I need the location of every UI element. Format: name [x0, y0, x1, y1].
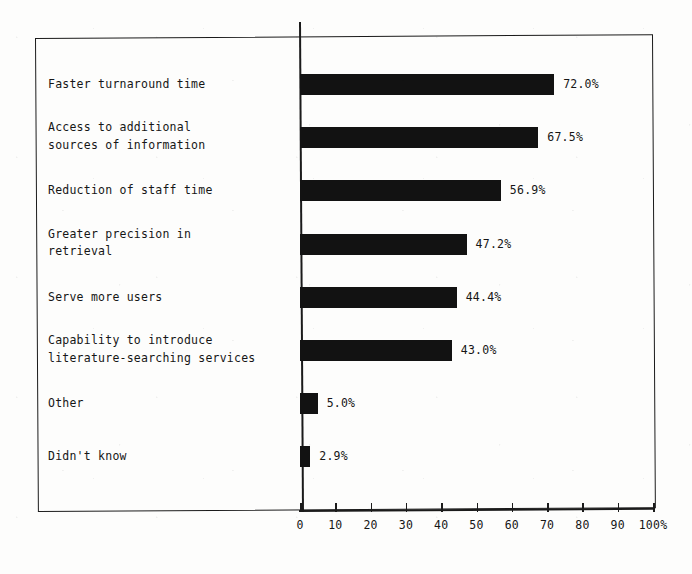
bar-category-label: Serve more users: [48, 289, 298, 307]
bar-row: Serve more users44.4%: [0, 287, 692, 308]
bar-category-label: Reduction of staff time: [48, 182, 298, 200]
bar: [300, 127, 538, 148]
bar-value-label: 47.2%: [476, 237, 512, 252]
zero-value-axis-line: [299, 22, 304, 512]
bar-value-label: 56.9%: [510, 183, 546, 198]
bar-row: Reduction of staff time56.9%: [0, 180, 692, 201]
bar-row: Greater precision in retrieval47.2%: [0, 234, 692, 255]
bar: [300, 340, 452, 361]
x-axis-tick-label: 100%: [639, 518, 668, 533]
x-axis-tick: [582, 503, 584, 512]
bar-category-label: Capability to introduce literature-searc…: [48, 332, 298, 367]
bar: [300, 393, 318, 414]
bar-value-label: 44.4%: [466, 290, 502, 305]
bar: [300, 234, 467, 255]
x-axis-tick: [335, 503, 337, 512]
bar-category-label: Access to additional sources of informat…: [48, 119, 298, 154]
bar: [300, 74, 554, 95]
x-axis-tick-label: 20: [363, 518, 377, 533]
x-axis-tick: [618, 503, 620, 512]
bar-category-label: Didn't know: [48, 448, 298, 466]
bar-row: Faster turnaround time72.0%: [0, 74, 692, 95]
bar-category-label: Other: [48, 395, 298, 413]
bar-chart-plot-area: Faster turnaround time72.0%Access to add…: [0, 0, 692, 574]
x-axis-tick-label: 80: [575, 518, 589, 533]
x-axis-tick: [547, 503, 549, 512]
x-axis-tick-label: 40: [434, 518, 448, 533]
x-axis-tick: [406, 503, 408, 512]
x-axis-tick: [512, 503, 514, 512]
bar-category-label: Faster turnaround time: [48, 76, 298, 94]
bar-row: Other5.0%: [0, 393, 692, 414]
bar-value-label: 67.5%: [547, 130, 583, 145]
bar-value-label: 5.0%: [327, 396, 356, 411]
bar-value-label: 43.0%: [461, 343, 497, 358]
x-axis-tick-label: 50: [469, 518, 483, 533]
x-axis-tick-label: 0: [296, 518, 303, 533]
bar-value-label: 72.0%: [563, 77, 599, 92]
bar-row: Access to additional sources of informat…: [0, 127, 692, 148]
x-axis-tick: [653, 503, 655, 512]
scanned-page-background: Faster turnaround time72.0%Access to add…: [0, 0, 692, 574]
bar-value-label: 2.9%: [319, 449, 348, 464]
x-axis-tick-label: 60: [505, 518, 519, 533]
x-axis-tick: [477, 503, 479, 512]
bar: [300, 287, 457, 308]
bar: [300, 446, 310, 467]
bar-row: Didn't know2.9%: [0, 446, 692, 467]
x-axis-tick: [371, 503, 373, 512]
bar-category-label: Greater precision in retrieval: [48, 226, 298, 261]
bar-row: Capability to introduce literature-searc…: [0, 340, 692, 361]
x-axis-tick-label: 30: [399, 518, 413, 533]
x-axis-tick-label: 70: [540, 518, 554, 533]
x-axis-tick: [441, 503, 443, 512]
bar: [300, 180, 501, 201]
x-axis-tick-label: 10: [328, 518, 342, 533]
x-axis-tick: [300, 503, 302, 512]
x-axis-tick-label: 90: [611, 518, 625, 533]
